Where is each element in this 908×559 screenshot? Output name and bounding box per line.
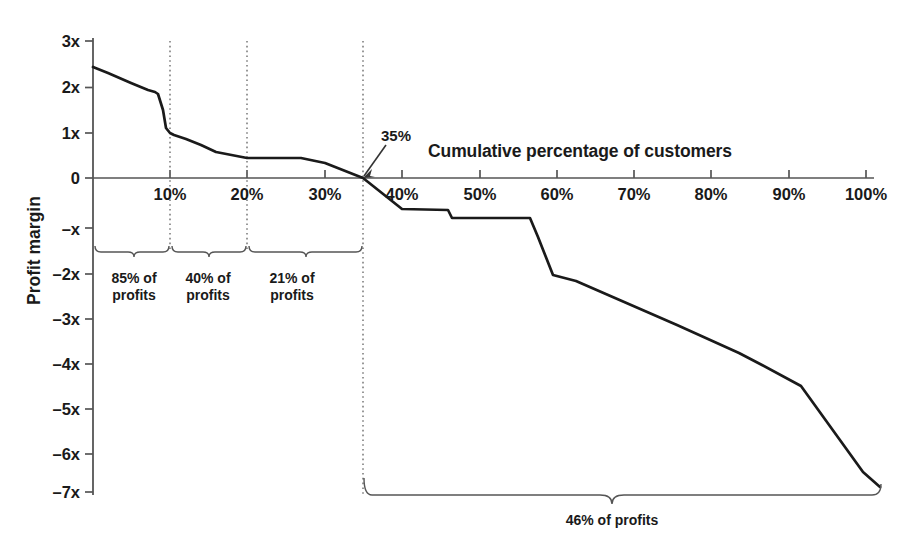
- zero-crossing-leader: [363, 145, 386, 178]
- x-tick-label-100pct: 100%: [832, 186, 900, 203]
- y-tick-label-neg-4x: –4x: [40, 356, 80, 373]
- y-tick-label-2x: 2x: [40, 79, 80, 96]
- bracket-0-10-label-line2: profits: [96, 287, 172, 304]
- zero-crossing-callout-label: 35%: [381, 128, 411, 143]
- dotted-reference-lines: [170, 41, 363, 497]
- bracket-0-10-path: [95, 246, 169, 257]
- x-tick-label-40pct: 40%: [372, 186, 432, 203]
- bracket-0-10-label-line1: 85% of: [96, 270, 172, 287]
- y-tick-label-3x: 3x: [40, 33, 80, 50]
- x-tick-label-50pct: 50%: [450, 186, 510, 203]
- bracket-35-100-path: [364, 478, 881, 504]
- x-tick-label-60pct: 60%: [527, 186, 587, 203]
- x-tick-label-30pct: 30%: [295, 186, 355, 203]
- y-axis-title: Profit margin: [24, 196, 45, 305]
- x-tick-label-10pct: 10%: [140, 186, 200, 203]
- bracket-20-35-label: 21% of profits: [247, 270, 337, 303]
- y-tick-label-neg-3x: –3x: [40, 311, 80, 328]
- chart-figure: 3x 2x 1x 0 –x –2x –3x –4x –5x –6x –7x 10…: [0, 0, 908, 559]
- bracket-35-100-label: 46% of profits: [532, 513, 692, 527]
- y-tick-label-neg-6x: –6x: [40, 446, 80, 463]
- y-tick-marks: [85, 41, 93, 492]
- bracket-10-20-label-line1: 40% of: [170, 270, 246, 287]
- bracket-20-35-label-line2: profits: [247, 287, 337, 304]
- y-tick-label-neg-7x: –7x: [40, 484, 80, 501]
- bracket-10-20-path: [172, 246, 246, 257]
- y-tick-label-0: 0: [40, 170, 80, 187]
- lower-bracket: [364, 478, 881, 504]
- x-axis-title: Cumulative percentage of customers: [428, 143, 732, 161]
- x-tick-marks: [170, 170, 866, 178]
- bracket-20-35-label-line1: 21% of: [247, 270, 337, 287]
- bracket-10-20-label: 40% of profits: [170, 270, 246, 303]
- x-tick-label-70pct: 70%: [604, 186, 664, 203]
- bracket-10-20-label-line2: profits: [170, 287, 246, 304]
- x-tick-label-90pct: 90%: [759, 186, 819, 203]
- bracket-20-35-path: [249, 246, 362, 257]
- upper-brackets: [95, 246, 362, 257]
- y-tick-label-neg-5x: –5x: [40, 401, 80, 418]
- bracket-0-10-label: 85% of profits: [96, 270, 172, 303]
- y-tick-label-1x: 1x: [40, 125, 80, 142]
- x-tick-label-20pct: 20%: [217, 186, 277, 203]
- y-tick-label-neg-2x: –2x: [40, 266, 80, 283]
- y-tick-label-neg-x: –x: [40, 221, 80, 238]
- x-tick-label-80pct: 80%: [681, 186, 741, 203]
